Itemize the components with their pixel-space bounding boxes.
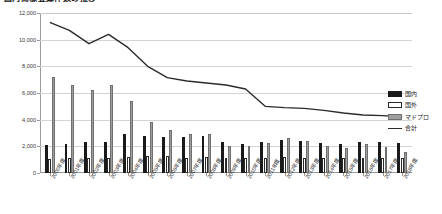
legend-label-kokugai: 国外: [405, 102, 417, 108]
y-tick-mark: [37, 66, 40, 67]
y-tick-mark: [37, 13, 40, 14]
y-tick-mark: [37, 93, 40, 94]
y-tick-mark: [37, 146, 40, 147]
chart-title: 国内商標登録件数の推移: [4, 0, 96, 2]
legend-item-kokunai[interactable]: 国内: [388, 88, 440, 100]
legend-swatch-madopro: [388, 114, 402, 120]
bar-マドプロ: [71, 85, 74, 173]
legend-label-madopro: マドプロ: [405, 114, 429, 120]
bar-マドプロ: [130, 101, 133, 173]
legend-swatch-total: [388, 125, 402, 131]
bar-group: [275, 13, 295, 173]
chart-container: 国内商標登録件数の推移 02,0004,0006,0008,00010,0001…: [0, 0, 442, 214]
chart-legend: 国内国外マドプロ合計: [388, 88, 440, 134]
legend-item-total[interactable]: 合計: [388, 123, 440, 135]
y-tick-label: 8,000: [0, 63, 36, 69]
bar-group: [40, 13, 60, 173]
bar-series-layer: [40, 13, 412, 173]
y-tick-label: 12,000: [0, 10, 36, 16]
y-tick-mark: [37, 173, 40, 174]
bar-group: [295, 13, 315, 173]
bar-group: [314, 13, 334, 173]
legend-label-kokunai: 国内: [405, 91, 417, 97]
bar-group: [118, 13, 138, 173]
legend-item-kokugai[interactable]: 国外: [388, 100, 440, 112]
legend-item-madopro[interactable]: マドプロ: [388, 111, 440, 123]
bar-group: [255, 13, 275, 173]
bar-group: [197, 13, 217, 173]
bar-group: [216, 13, 236, 173]
legend-label-total: 合計: [405, 125, 417, 131]
bar-group: [138, 13, 158, 173]
y-tick-label: 4,000: [0, 117, 36, 123]
bar-group: [157, 13, 177, 173]
y-tick-mark: [37, 40, 40, 41]
bar-マドプロ: [110, 85, 113, 173]
y-tick-mark: [37, 120, 40, 121]
bar-group: [334, 13, 354, 173]
plot-area: [40, 13, 412, 173]
bar-group: [99, 13, 119, 173]
bar-group: [177, 13, 197, 173]
y-tick-label: 0: [0, 170, 36, 176]
y-tick-label: 6,000: [0, 90, 36, 96]
bar-group: [236, 13, 256, 173]
bar-マドプロ: [91, 90, 94, 173]
legend-swatch-kokugai: [388, 102, 402, 108]
y-tick-label: 2,000: [0, 143, 36, 149]
bar-group: [79, 13, 99, 173]
x-axis: 2000年度2001年度2002年度2003年度2004年度2005年度2006…: [40, 176, 412, 214]
y-tick-label: 10,000: [0, 37, 36, 43]
bar-group: [353, 13, 373, 173]
bar-group: [60, 13, 80, 173]
legend-swatch-kokunai: [388, 91, 402, 97]
bar-マドプロ: [52, 77, 55, 173]
